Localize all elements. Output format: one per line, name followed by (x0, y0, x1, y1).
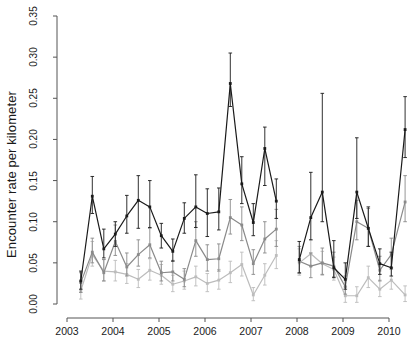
x-tick-label: 2009 (323, 325, 363, 337)
x-tick-label: 2007 (231, 325, 271, 337)
y-tick-label: 0.30 (27, 40, 41, 74)
y-tick-label: 0.10 (27, 205, 41, 239)
x-tick-label: 2005 (139, 325, 179, 337)
x-tick-label: 2003 (47, 325, 87, 337)
y-tick-label: 0.25 (27, 81, 41, 115)
y-tick-label: 0.05 (27, 246, 41, 280)
y-tick-label: 0.20 (27, 122, 41, 156)
series-series-light (79, 240, 407, 303)
y-tick-label: 0.00 (27, 287, 41, 321)
x-tick-label: 2006 (185, 325, 225, 337)
y-tick-label: 0.15 (27, 164, 41, 198)
plot-area (0, 0, 411, 349)
x-tick-label: 2008 (277, 325, 317, 337)
x-tick-label: 2010 (369, 325, 409, 337)
x-tick-label: 2004 (93, 325, 133, 337)
y-tick-label: 0.35 (27, 0, 41, 33)
encounter-rate-chart: Encounter rate per kilometer 0.000.050.1… (0, 0, 411, 349)
series-series-dark (79, 53, 407, 289)
